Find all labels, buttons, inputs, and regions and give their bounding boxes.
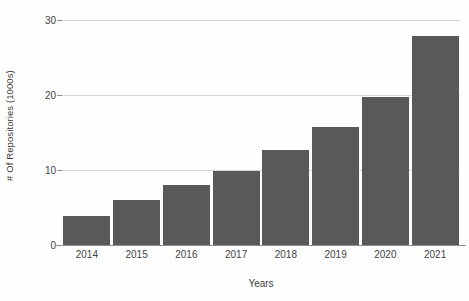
gridline — [62, 245, 460, 246]
x-axis-title-label: Years — [248, 278, 273, 289]
plot-area — [62, 20, 460, 245]
bar[interactable] — [262, 150, 309, 245]
y-axis-tick-label: 20 — [16, 90, 62, 101]
bar[interactable] — [163, 185, 210, 245]
y-axis-tick-label: 10 — [16, 165, 62, 176]
x-axis-tick-label: 2015 — [126, 249, 148, 260]
y-axis-tick-mark — [57, 245, 62, 246]
x-axis-title: Years — [62, 278, 460, 289]
x-axis-tick-label: 2019 — [325, 249, 347, 260]
bar[interactable] — [63, 216, 110, 245]
bar[interactable] — [362, 97, 409, 246]
bar[interactable] — [312, 127, 359, 245]
x-axis-tick-label: 2016 — [175, 249, 197, 260]
y-axis-tick-mark — [57, 170, 62, 171]
gridline — [62, 20, 460, 21]
bar[interactable] — [213, 171, 260, 245]
x-axis-tick-label: 2014 — [76, 249, 98, 260]
bar[interactable] — [412, 36, 459, 245]
y-axis-tick-label: 30 — [16, 15, 62, 26]
x-axis-tick-label: 2021 — [424, 249, 446, 260]
x-axis-tick-labels: 20142015201620172018201920202021 — [62, 249, 460, 267]
y-axis-tick-mark — [57, 95, 62, 96]
x-axis-tick-label: 2017 — [225, 249, 247, 260]
bar-chart-figure: # Of Repositories (1000s) 0102030 201420… — [0, 0, 469, 301]
x-axis-tick-label: 2020 — [374, 249, 396, 260]
bar[interactable] — [113, 200, 160, 245]
y-axis-tick-mark — [57, 20, 62, 21]
x-axis-tick-label: 2018 — [275, 249, 297, 260]
y-axis-tick-labels: 0102030 — [0, 0, 62, 301]
